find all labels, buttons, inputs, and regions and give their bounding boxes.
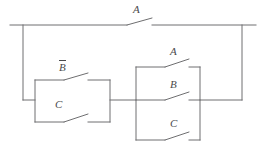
switching-circuit-diagram: A B C A B C xyxy=(0,0,266,150)
switch-a-right-label: A xyxy=(170,46,177,57)
parallel-block-left-group xyxy=(35,73,110,122)
top-rail-group xyxy=(10,18,256,25)
switch-b-not-blade[interactable] xyxy=(64,73,88,80)
switch-c-right-label: C xyxy=(170,118,177,129)
switch-b-right-blade[interactable] xyxy=(165,92,189,100)
left-riser-group xyxy=(23,25,35,100)
parallel-block-right-group xyxy=(136,59,200,140)
switch-a-right-blade[interactable] xyxy=(165,59,189,67)
switch-c-left-blade[interactable] xyxy=(64,114,88,122)
switch-c-left-label: C xyxy=(55,99,62,110)
switch-b-right-label: B xyxy=(170,79,177,90)
switch-a-top-label: A xyxy=(133,4,140,15)
switch-a-top-blade[interactable] xyxy=(127,18,152,25)
switch-b-not-label: B xyxy=(59,60,66,73)
switch-b-not-label-text: B xyxy=(59,60,66,73)
right-riser-group xyxy=(200,25,242,100)
circuit-schematic-canvas xyxy=(0,0,266,150)
switch-c-right-blade[interactable] xyxy=(165,132,189,140)
